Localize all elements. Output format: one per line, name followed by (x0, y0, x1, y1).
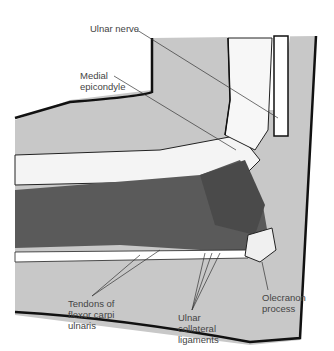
label-ulnar-collateral-ligaments: Ulnar collateral ligaments (178, 312, 219, 345)
label-tendons-flexor-carpi-ulnaris: Tendons of flexor carpi ulnaris (68, 298, 114, 331)
label-medial-epicondyle: Medial epicondyle (80, 70, 125, 92)
label-ulnar-nerve: Ulnar nerve (90, 23, 139, 34)
humerus (225, 38, 272, 150)
label-olecranon-process: Olecranon process (262, 292, 306, 314)
